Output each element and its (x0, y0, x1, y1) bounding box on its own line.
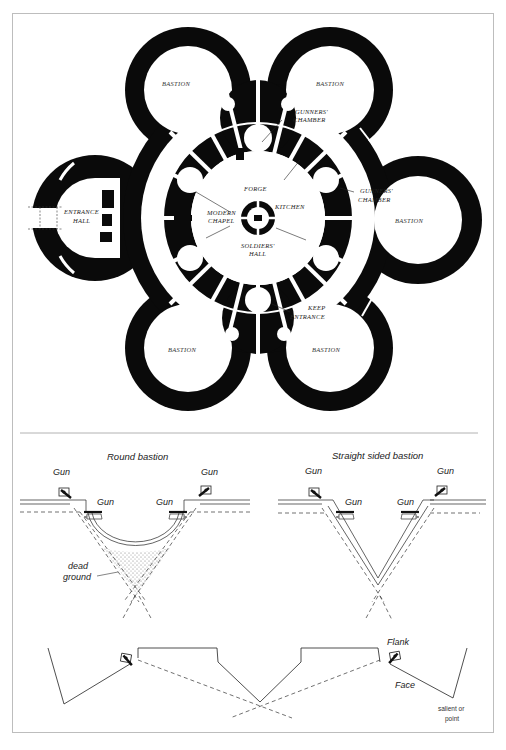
label-modern-chapel-2: CHAPEL (208, 217, 234, 224)
gun-icon (435, 486, 447, 496)
label-bastion-bottom-right: BASTION (312, 346, 340, 353)
label-keep-entrance-2: ENTRANCE (289, 313, 325, 320)
label-gunners-chamber-top-2: CHAMBER (293, 116, 325, 123)
label-entrance-hall-2: HALL (72, 217, 90, 224)
gun-icon (401, 512, 419, 519)
salient-label: point (445, 715, 459, 723)
gun-label: Gun (201, 467, 218, 477)
dead-ground-label: ground (63, 572, 92, 582)
salient-label: salient or (438, 705, 465, 712)
straight-bastion-diagram: Straight sided bastion Gun Gun Gun Gun (278, 450, 486, 602)
gun-icon (336, 512, 354, 519)
label-kitchen: KITCHEN (274, 203, 305, 210)
face-label: Face (395, 680, 415, 690)
flank-label: Flank (387, 637, 410, 647)
gun-label: Gun (53, 467, 70, 477)
gun-label: Gun (345, 497, 362, 507)
gun-label: Gun (305, 466, 322, 476)
gun-icon (387, 651, 401, 663)
gun-icon (169, 512, 187, 519)
trace-diagram: Flank Face salient or point (48, 596, 467, 723)
label-entrance-hall-1: ENTRANCE (63, 208, 99, 215)
label-bastion-bottom-left: BASTION (168, 346, 196, 353)
round-bastion-title: Round bastion (107, 451, 168, 462)
straight-bastion-title: Straight sided bastion (332, 450, 423, 461)
label-bastion-right: BASTION (395, 217, 423, 224)
label-gunners-chamber-top-1: GUNNERS' (295, 108, 328, 115)
gun-icon (84, 512, 102, 519)
label-bastion-top-left: BASTION (162, 80, 190, 87)
label-gunners-chamber-right-2: CHAMBER (358, 196, 390, 203)
gun-label: Gun (97, 497, 114, 507)
gun-icon (59, 488, 71, 498)
castle-plan: BASTION BASTION BASTION BASTION BASTION … (28, 27, 482, 411)
fortification-figure: BASTION BASTION BASTION BASTION BASTION … (0, 0, 506, 750)
label-bastion-top-right: BASTION (316, 80, 344, 87)
round-bastion-diagram: Round bastion Gun Gun (20, 451, 250, 602)
gun-icon (120, 653, 134, 665)
label-keep-entrance-1: KEEP (307, 304, 325, 311)
gun-label: Gun (156, 497, 173, 507)
gun-icon (199, 486, 211, 496)
label-modern-chapel-1: MODERN (206, 209, 236, 216)
label-gunners-chamber-right-1: GUNNERS' (360, 187, 393, 194)
label-forge: FORGE (243, 185, 267, 192)
gun-icon (309, 488, 321, 498)
label-soldiers-hall-1: SOLDIERS' (241, 242, 275, 249)
dead-ground-label: dead (68, 561, 89, 571)
gun-label: Gun (397, 497, 414, 507)
label-soldiers-hall-2: HALL (248, 250, 266, 257)
gun-label: Gun (437, 466, 454, 476)
